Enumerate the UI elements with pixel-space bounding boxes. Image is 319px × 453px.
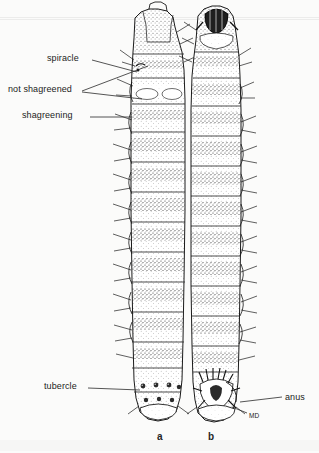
label-shagreening: shagreening bbox=[22, 110, 73, 120]
label-tubercle: tubercle bbox=[44, 381, 77, 391]
label-anus: anus bbox=[285, 392, 305, 402]
label-md: MD bbox=[249, 411, 259, 421]
figure-page: spiracle not shagreened shagreening tube… bbox=[0, 0, 319, 453]
leader-spiracle bbox=[92, 60, 137, 72]
specimen-a-dorsal bbox=[113, 0, 197, 453]
label-spiracle: spiracle bbox=[47, 53, 79, 63]
specimen-b-ventral bbox=[179, 0, 257, 453]
leader-tubercle bbox=[88, 388, 140, 390]
label-not-shagreened: not shagreened bbox=[8, 84, 72, 94]
leader-anus bbox=[240, 397, 282, 402]
posterior-plate-a bbox=[140, 404, 177, 420]
caption-specimen-b: b bbox=[208, 432, 214, 442]
caption-specimen-a: a bbox=[157, 432, 163, 442]
